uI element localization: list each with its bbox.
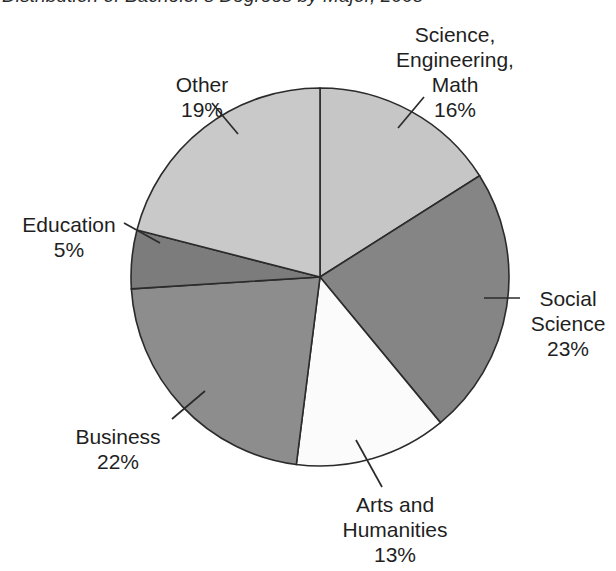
pie-label-line-2: Engineering, xyxy=(396,48,514,71)
pie-label-percent: 13% xyxy=(310,542,480,567)
pie-label-line-1: Social xyxy=(539,287,596,310)
pie-label-percent: 22% xyxy=(58,449,178,474)
pie-label-other: Other 19% xyxy=(160,72,244,122)
pie-label-line-2: Humanities xyxy=(342,518,447,541)
pie-label-line-3: Math xyxy=(432,73,479,96)
pie-label-percent: 5% xyxy=(10,237,128,262)
pie-label-line-1: Other xyxy=(176,73,229,96)
pie-label-arts-and-humanities: Arts and Humanities 13% xyxy=(310,492,480,567)
pie-label-line-1: Business xyxy=(75,425,160,448)
pie-label-education: Education 5% xyxy=(10,212,128,262)
pie-label-line-1: Arts and xyxy=(356,493,434,516)
pie-label-percent: 23% xyxy=(524,336,612,361)
pie-label-percent: 19% xyxy=(160,97,244,122)
pie-chart: Science, Engineering, Math 16% Social Sc… xyxy=(0,0,616,571)
pie-label-line-2: Science xyxy=(531,312,606,335)
pie-label-science-engineering-math: Science, Engineering, Math 16% xyxy=(380,22,530,122)
pie-label-line-1: Education xyxy=(22,213,115,236)
pie-label-percent: 16% xyxy=(380,97,530,122)
pie-label-line-1: Science, xyxy=(415,23,496,46)
pie-label-business: Business 22% xyxy=(58,424,178,474)
pie-label-social-science: Social Science 23% xyxy=(524,286,612,361)
